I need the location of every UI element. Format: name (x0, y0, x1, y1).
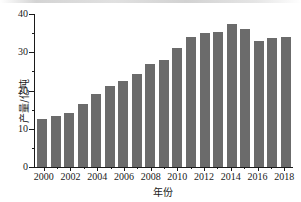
y-minor-tick-5 (32, 148, 35, 149)
y-tick-label-10: 10 (18, 124, 28, 134)
y-tick-label-30: 30 (18, 47, 28, 57)
bar-2006 (118, 81, 128, 167)
y-tick-40 (29, 14, 35, 15)
x-tick-label-2004: 2004 (87, 172, 107, 182)
bar-2002 (64, 113, 74, 167)
x-tick-2017 (271, 167, 272, 169)
x-tick-label-2014: 2014 (221, 172, 241, 182)
y-minor-tick-15 (32, 110, 35, 111)
bar-2012 (200, 33, 210, 167)
bar-2004 (91, 94, 101, 167)
x-tick-label-2016: 2016 (248, 172, 268, 182)
y-minor-tick-25 (32, 71, 35, 72)
y-tick-label-40: 40 (18, 9, 28, 19)
y-tick-label-20: 20 (18, 86, 28, 96)
x-axis-title: 年份 (34, 184, 292, 199)
x-tick-2011 (191, 167, 192, 169)
plot-area: 0102030402000200220042006200820102012201… (34, 14, 293, 168)
y-tick-20 (29, 91, 35, 92)
bar-2005 (105, 86, 115, 167)
y-tick-label-0: 0 (23, 162, 28, 172)
bar-2016 (254, 41, 264, 167)
bar-2015 (240, 29, 250, 167)
x-tick-label-2002: 2002 (60, 172, 80, 182)
y-tick-0 (29, 167, 35, 168)
y-tick-10 (29, 129, 35, 130)
x-tick-label-2008: 2008 (141, 172, 161, 182)
x-tick-label-2000: 2000 (34, 172, 54, 182)
bar-2008 (145, 64, 155, 167)
x-tick-label-2018: 2018 (274, 172, 294, 182)
y-tick-30 (29, 52, 35, 53)
x-tick-2001 (57, 167, 58, 169)
x-tick-2005 (111, 167, 112, 169)
y-minor-tick-35 (32, 33, 35, 34)
bar-2007 (132, 74, 142, 167)
bar-2000 (37, 119, 47, 167)
x-tick-label-2010: 2010 (167, 172, 187, 182)
bar-2003 (78, 104, 88, 168)
x-tick-label-2012: 2012 (194, 172, 214, 182)
bar-2013 (213, 32, 223, 167)
bar-2010 (172, 48, 182, 167)
bar-2017 (267, 38, 277, 167)
bar-chart-figure: 产量/亿吨 0102030402000200220042006200820102… (0, 0, 301, 202)
x-tick-2015 (244, 167, 245, 169)
x-tick-2009 (164, 167, 165, 169)
bar-series (35, 14, 293, 167)
x-tick-label-2006: 2006 (114, 172, 134, 182)
bar-2001 (51, 116, 61, 167)
bar-2009 (159, 60, 169, 167)
scan-artifact-band (0, 0, 301, 3)
bar-2014 (227, 24, 237, 167)
bar-2011 (186, 37, 196, 167)
x-tick-2007 (137, 167, 138, 169)
bar-2018 (281, 37, 291, 167)
x-tick-2003 (84, 167, 85, 169)
x-tick-2013 (217, 167, 218, 169)
